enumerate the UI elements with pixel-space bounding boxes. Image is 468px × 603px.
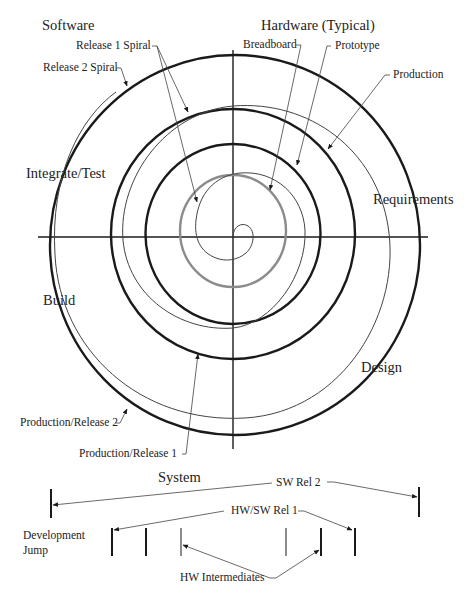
sw-rel2-right-leader — [327, 482, 417, 497]
hw-sw-rel1-label: HW/SW Rel 1 — [231, 505, 298, 517]
outer-ring-production-release2 — [50, 55, 420, 435]
hw-sw-rel1-right-leader — [298, 511, 352, 530]
production-release1-leader — [182, 354, 198, 454]
development-jump-label-line1: Development — [23, 530, 85, 542]
hw-intermediates-label: HW Intermediates — [180, 572, 264, 584]
phase-integrate-test: Integrate/Test — [26, 166, 106, 181]
release1-leader — [152, 46, 188, 112]
release2-spiral-label: Release 2 Spiral — [43, 62, 118, 74]
timeline-title-system: System — [158, 470, 201, 485]
production-release1-label: Production/Release 1 — [79, 448, 177, 460]
production-label: Production — [393, 69, 443, 81]
software-title: Software — [42, 18, 94, 33]
hw-sw-rel1-left-leader — [114, 511, 224, 530]
phase-requirements: Requirements — [373, 192, 454, 207]
sw-rel2-label: SW Rel 2 — [276, 477, 321, 489]
phase-build: Build — [43, 293, 75, 308]
release1-spiral-label: Release 1 Spiral — [76, 40, 151, 52]
breadboard-label: Breadboard — [243, 39, 297, 51]
hardware-title: Hardware (Typical) — [261, 18, 375, 33]
production-release2-label: Production/Release 2 — [20, 417, 118, 429]
prototype-leader — [297, 46, 331, 165]
phase-design: Design — [361, 360, 402, 375]
software-spiral — [54, 92, 390, 418]
hw-intermediates-right-leader — [270, 550, 319, 578]
sw-rel2-left-leader — [53, 483, 272, 505]
development-jump-label-line2: Jump — [23, 545, 48, 557]
prototype-label: Prototype — [335, 40, 380, 52]
